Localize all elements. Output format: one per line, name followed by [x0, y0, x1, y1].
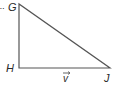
vertex-label-g: G [8, 1, 17, 13]
vertex-label-h: H [6, 62, 14, 74]
vertex-label-j: J [103, 72, 110, 84]
prefix-mark: .. [0, 1, 5, 11]
triangle-diagram: .. G H J v [0, 0, 118, 86]
triangle-ghj [19, 4, 110, 68]
vector-label-v: v [63, 73, 69, 84]
